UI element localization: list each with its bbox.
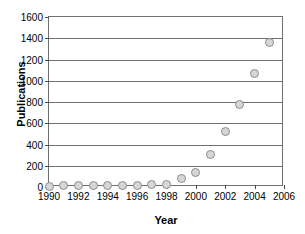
data-point: [59, 181, 68, 190]
y-tick-label: 400: [26, 139, 43, 150]
x-tick-label: 1994: [97, 191, 119, 202]
x-tick-mark: [196, 185, 197, 189]
data-point: [162, 180, 171, 189]
gridline: [49, 60, 282, 61]
data-point: [45, 182, 54, 191]
y-tick-mark: [45, 17, 49, 18]
y-tick-label: 600: [26, 118, 43, 129]
data-point: [133, 181, 142, 190]
data-point: [235, 100, 244, 109]
gridline: [49, 81, 282, 82]
x-tick-mark: [255, 185, 256, 189]
data-point: [89, 181, 98, 190]
x-tick-label: 1998: [155, 191, 177, 202]
plot-area: 02004006008001000120014001600 1990199219…: [48, 16, 283, 186]
x-tick-label: 2000: [185, 191, 207, 202]
y-tick-label: 200: [26, 160, 43, 171]
gridline: [49, 123, 282, 124]
data-point: [147, 180, 156, 189]
x-tick-label: 1990: [38, 191, 60, 202]
x-tick-mark: [225, 185, 226, 189]
y-tick-mark: [45, 123, 49, 124]
x-tick-label: 1992: [67, 191, 89, 202]
y-tick-label: 1000: [21, 75, 43, 86]
x-tick-label: 1996: [126, 191, 148, 202]
data-point: [118, 181, 127, 190]
gridline: [49, 102, 282, 103]
x-tick-label: 2004: [244, 191, 266, 202]
y-tick-mark: [45, 102, 49, 103]
gridline: [49, 166, 282, 167]
data-point: [74, 181, 83, 190]
gridline: [49, 38, 282, 39]
data-point: [250, 69, 259, 78]
x-tick-label: 2002: [214, 191, 236, 202]
data-point: [103, 181, 112, 190]
publications-scatter-chart: Publications 020040060080010001200140016…: [0, 0, 305, 234]
y-tick-mark: [45, 38, 49, 39]
y-tick-mark: [45, 60, 49, 61]
y-tick-mark: [45, 166, 49, 167]
y-tick-label: 1200: [21, 54, 43, 65]
x-axis-title: Year: [48, 214, 284, 226]
y-tick-mark: [45, 145, 49, 146]
data-point: [177, 174, 186, 183]
gridline: [49, 145, 282, 146]
y-tick-label: 1400: [21, 33, 43, 44]
x-tick-label: 2006: [273, 191, 295, 202]
data-point: [191, 168, 200, 177]
data-point: [206, 150, 215, 159]
y-tick-label: 1600: [21, 12, 43, 23]
y-tick-label: 800: [26, 97, 43, 108]
y-tick-mark: [45, 81, 49, 82]
data-point: [221, 127, 230, 136]
y-axis-title: Publications: [15, 29, 27, 159]
data-point: [265, 38, 274, 47]
x-tick-mark: [284, 185, 285, 189]
